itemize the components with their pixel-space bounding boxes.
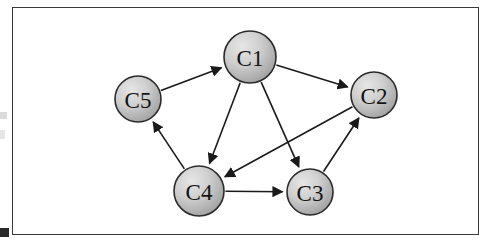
node-label: C4	[186, 180, 213, 205]
edge-c4-to-c5	[153, 122, 184, 169]
edge-c5-to-c1	[161, 68, 222, 91]
edge-c2-to-c4	[225, 107, 353, 177]
node-c3[interactable]: C3	[287, 169, 333, 215]
node-c5[interactable]: C5	[115, 76, 161, 122]
node-c2[interactable]: C2	[351, 72, 397, 118]
edge-c1-to-c2	[276, 65, 347, 87]
diagram-screenshot: C1C2C3C4C5	[0, 0, 488, 243]
node-label: C3	[297, 181, 324, 206]
edge-c1-to-c4	[209, 83, 240, 164]
directed-graph: C1C2C3C4C5	[0, 0, 488, 243]
edge-c3-to-c2	[323, 118, 358, 172]
node-c1[interactable]: C1	[224, 31, 276, 83]
node-label: C1	[237, 46, 264, 71]
node-c4[interactable]: C4	[174, 166, 224, 216]
edge-c4-to-c3	[225, 191, 282, 192]
node-label: C2	[361, 84, 388, 109]
node-label: C5	[125, 88, 152, 113]
